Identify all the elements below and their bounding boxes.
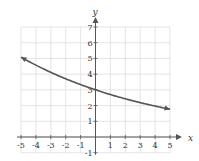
svg-text:x: x [188, 133, 193, 143]
svg-text:-5: -5 [17, 141, 25, 150]
svg-text:6: 6 [87, 39, 92, 48]
svg-text:y: y [92, 7, 99, 17]
svg-text:5: 5 [87, 54, 92, 63]
chart: xy -5-4-3-2-112345-11234567 [0, 0, 199, 161]
svg-text:-1: -1 [77, 141, 85, 150]
svg-text:-3: -3 [47, 141, 55, 150]
svg-text:1: 1 [108, 141, 113, 150]
svg-text:4: 4 [87, 70, 92, 79]
svg-text:3: 3 [138, 141, 143, 150]
axes: xy [17, 7, 193, 155]
svg-text:-1: -1 [85, 149, 93, 158]
svg-text:1: 1 [87, 117, 92, 126]
svg-text:2: 2 [87, 102, 92, 111]
svg-text:2: 2 [123, 141, 128, 150]
svg-text:7: 7 [87, 23, 92, 32]
svg-text:5: 5 [167, 141, 172, 150]
svg-text:-4: -4 [32, 141, 40, 150]
svg-text:4: 4 [153, 141, 158, 150]
svg-text:-2: -2 [62, 141, 70, 150]
